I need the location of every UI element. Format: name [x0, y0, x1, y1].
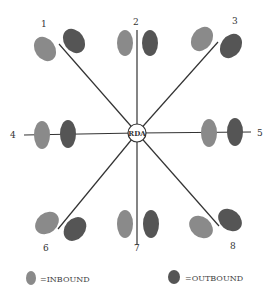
inbound-ellipse [201, 119, 217, 147]
rda-diagram: 1 2 3 4 5 6 7 8 [0, 0, 270, 300]
node-label: 1 [41, 19, 47, 29]
outbound-ellipse [59, 213, 91, 246]
outbound-ellipse [227, 118, 243, 146]
node-3: 3 [186, 16, 246, 62]
outbound-ellipse [58, 25, 89, 58]
outbound-ellipse [60, 120, 76, 148]
inbound-ellipse [117, 30, 133, 56]
inbound-ellipse [186, 23, 217, 56]
inbound-ellipse [34, 121, 50, 149]
node-8: 8 [185, 204, 247, 251]
inbound-ellipse [31, 207, 64, 239]
center-node: RDA [128, 124, 146, 142]
node-7: 7 [117, 210, 159, 253]
outbound-ellipse [143, 210, 159, 238]
center-label: RDA [128, 129, 146, 138]
spoke-1 [59, 44, 137, 133]
node-4: 4 [10, 120, 76, 149]
outbound-ellipse [142, 30, 158, 56]
legend-outbound-label: =OUTBOUND [185, 274, 243, 283]
inbound-ellipse [185, 211, 218, 243]
legend-inbound-label: =INBOUND [40, 275, 90, 284]
inbound-ellipse [29, 33, 60, 66]
node-label: 5 [257, 128, 263, 138]
node-label: 6 [43, 243, 49, 253]
outbound-ellipse [215, 30, 246, 63]
inbound-ellipse [117, 210, 133, 238]
outbound-ellipse [214, 204, 247, 236]
legend-outbound-swatch [168, 270, 180, 284]
legend-inbound-swatch [26, 271, 36, 285]
node-label: 3 [232, 16, 238, 26]
node-5: 5 [201, 118, 263, 147]
node-label: 2 [133, 17, 139, 27]
node-6: 6 [31, 207, 91, 253]
node-label: 8 [230, 241, 236, 251]
node-label: 7 [134, 243, 140, 253]
node-label: 4 [10, 130, 16, 140]
legend: =INBOUND =OUTBOUND [26, 270, 243, 285]
node-1: 1 [29, 19, 89, 65]
